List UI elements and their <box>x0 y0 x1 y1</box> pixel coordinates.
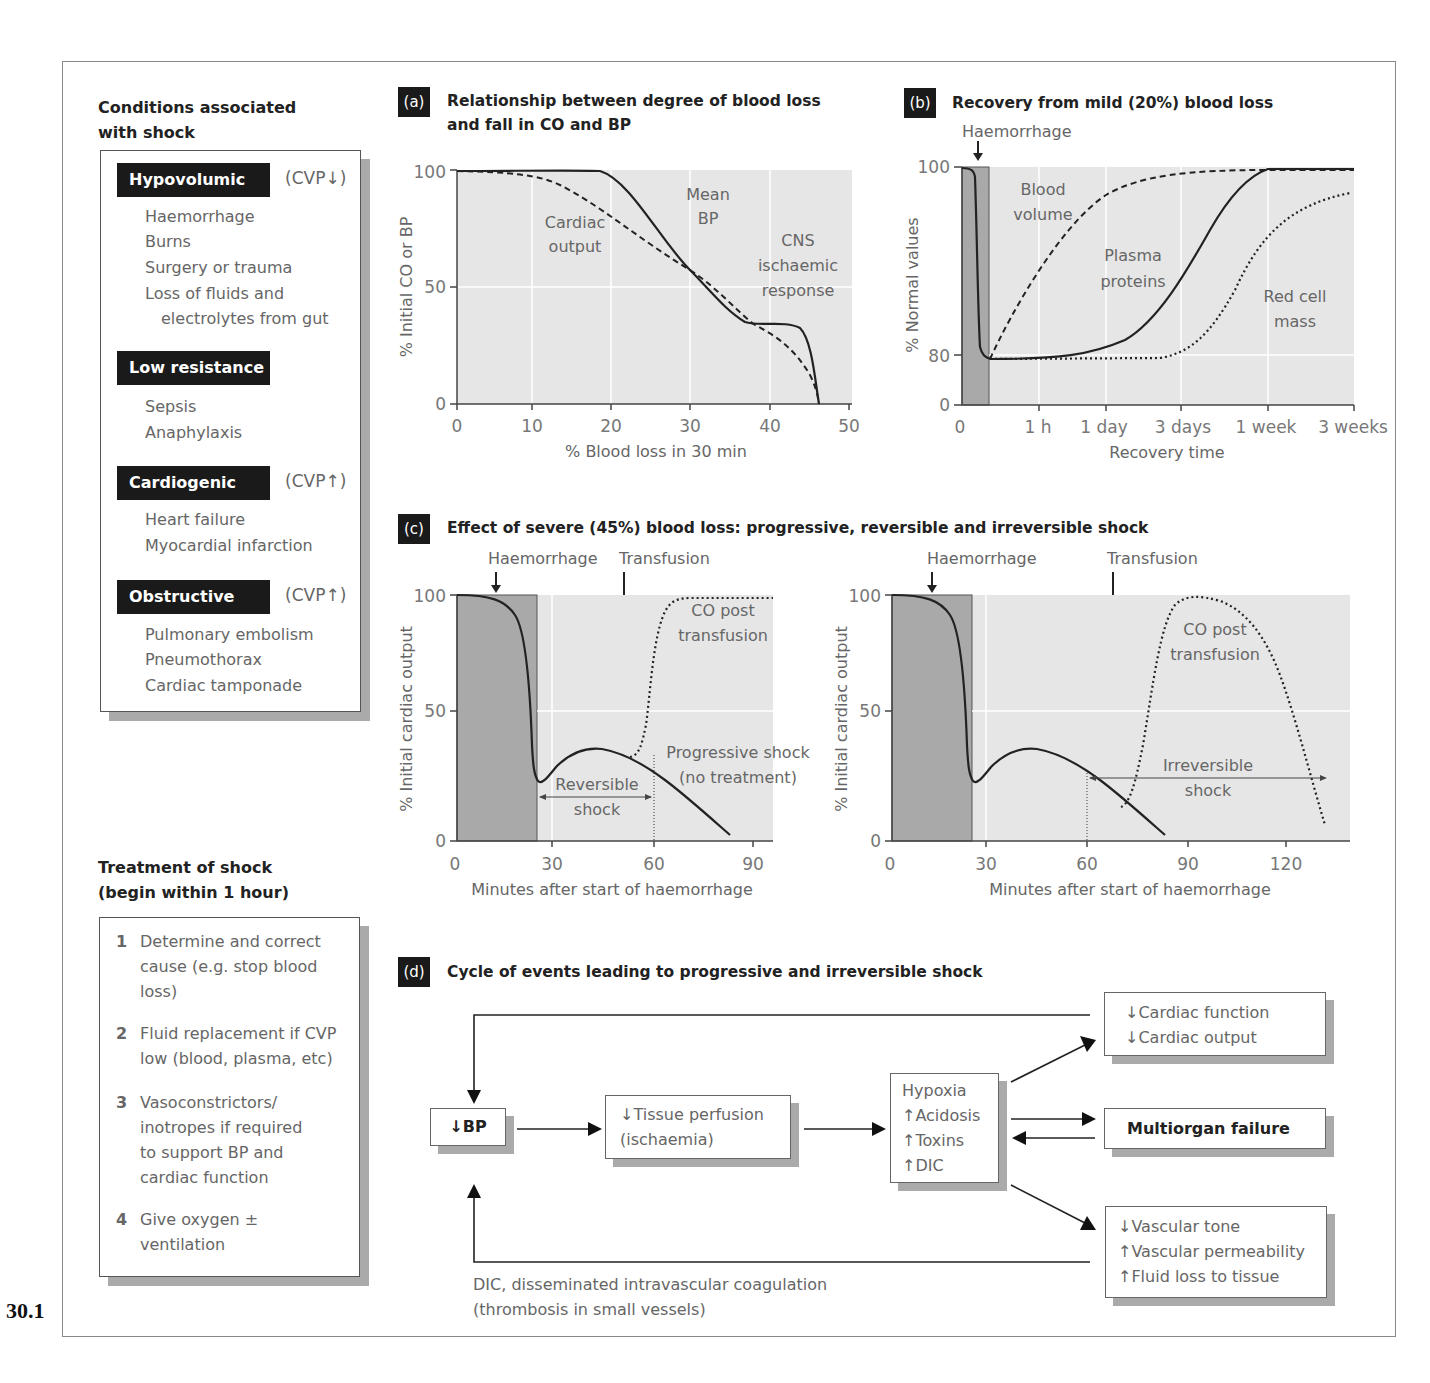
y-tick: 0 <box>435 394 446 414</box>
arrowhead-icon <box>1012 1131 1026 1145</box>
haemorrhage-period <box>457 595 537 841</box>
step-number: 4 <box>116 1207 127 1232</box>
y-ticks: 100 50 0 <box>414 162 446 414</box>
step-text: Give oxygen ± ventilation <box>140 1207 258 1257</box>
node-bp: ↓BP <box>430 1108 506 1146</box>
figure-number: 30.1 <box>6 1298 45 1324</box>
y-ticks: 100500 <box>849 586 881 851</box>
x-tick: 0 <box>450 854 461 874</box>
label-red-cell: Red cell <box>1263 287 1326 306</box>
x-tick: 30 <box>679 416 701 436</box>
label-blood: Blood <box>1020 180 1065 199</box>
step-line: loss) <box>140 979 321 1004</box>
node-line: ↓Vascular tone <box>1118 1214 1326 1239</box>
panel-d-label: (d) <box>398 957 430 987</box>
y-axis-label: % Normal values <box>903 217 922 352</box>
x-axis-label: Minutes after start of haemorrhage <box>989 880 1271 899</box>
arrowhead-icon <box>467 1090 481 1104</box>
chart-c-left: Haemorrhage Transfusion 100500 0306090 M… <box>390 545 830 910</box>
x-tick: 60 <box>643 854 665 874</box>
label-co-post: CO post <box>1183 620 1246 639</box>
step-line: low (blood, plasma, etc) <box>140 1046 336 1071</box>
step-number: 3 <box>116 1090 127 1115</box>
node-line: ↑Toxins <box>902 1128 998 1153</box>
treatment-heading-line1: Treatment of shock <box>98 855 289 880</box>
label-bp: BP <box>698 209 719 228</box>
step-line: Give oxygen ± <box>140 1207 258 1232</box>
label-shock: shock <box>574 800 621 819</box>
panel-b-label: (b) <box>904 88 936 118</box>
x-axis-label: Recovery time <box>1109 443 1224 462</box>
step-text: Determine and correct cause (e.g. stop b… <box>140 929 321 1004</box>
label-co-post: CO post <box>691 601 754 620</box>
node-tissue-perfusion: ↓Tissue perfusion (ischaemia) <box>605 1095 791 1159</box>
step-text: Vasoconstrictors/ inotropes if required … <box>140 1090 302 1190</box>
condition-item: Anaphylaxis <box>145 420 242 445</box>
condition-item: Cardiac tamponade <box>145 673 302 698</box>
condition-item: Sepsis <box>145 394 196 419</box>
label-proteins: proteins <box>1100 272 1165 291</box>
x-ticks: 0306090120 <box>885 854 1303 874</box>
arrowhead-icon <box>927 585 937 593</box>
dic-footnote: DIC, disseminated intravascular coagulat… <box>473 1272 827 1322</box>
conditions-box: Hypovolumic (CVP↓) Haemorrhage Burns Sur… <box>100 150 361 712</box>
x-tick: 3 weeks <box>1318 417 1388 437</box>
treatment-heading-line2: (begin within 1 hour) <box>98 880 289 905</box>
node-line: ↑Vascular permeability <box>1118 1239 1326 1264</box>
cvp-cardiogenic: (CVP↑) <box>285 471 346 491</box>
label-reversible: Reversible <box>555 775 638 794</box>
condition-item: Pulmonary embolism <box>145 622 314 647</box>
node-multiorgan-failure: Multiorgan failure <box>1104 1108 1326 1149</box>
node-line: ↑DIC <box>902 1153 998 1178</box>
panel-c-title: Effect of severe (45%) blood loss: progr… <box>447 516 1148 540</box>
panel-c-label: (c) <box>398 514 430 544</box>
transfusion-label: Transfusion <box>618 549 710 568</box>
x-tick: 40 <box>759 416 781 436</box>
transfusion-label: Transfusion <box>1106 549 1198 568</box>
x-tick: 0 <box>885 854 896 874</box>
node-hypoxia: Hypoxia ↑Acidosis ↑Toxins ↑DIC <box>890 1073 999 1183</box>
panel-a-title-line2: and fall in CO and BP <box>447 113 821 137</box>
arrowhead-icon <box>973 153 983 161</box>
step-text: Fluid replacement if CVP low (blood, pla… <box>140 1021 336 1071</box>
y-tick: 100 <box>918 157 950 177</box>
x-tick: 50 <box>838 416 860 436</box>
step-line: ventilation <box>140 1232 258 1257</box>
chart-c-right: Haemorrhage Transfusion 100500 030609012… <box>825 545 1400 910</box>
arrowhead-icon <box>491 585 501 593</box>
y-axis-label: % Initial cardiac output <box>397 626 416 812</box>
arrowhead-icon <box>588 1122 602 1136</box>
y-tick: 100 <box>414 586 446 606</box>
arrowhead-icon <box>1080 1036 1096 1052</box>
x-ticks: 0306090 <box>450 854 764 874</box>
x-tick: 1 h <box>1025 417 1052 437</box>
step-number: 2 <box>116 1021 127 1046</box>
node-vascular: ↓Vascular tone ↑Vascular permeability ↑F… <box>1105 1206 1327 1298</box>
x-axis-label: Minutes after start of haemorrhage <box>471 880 753 899</box>
haemorrhage-label: Haemorrhage <box>927 549 1037 568</box>
y-tick: 100 <box>414 162 446 182</box>
x-tick: 0 <box>955 417 966 437</box>
label-cardiac: Cardiac <box>545 213 605 232</box>
chart-b: Haemorrhage 100800 01 h1 day3 days1 week… <box>890 115 1400 470</box>
step-line: Vasoconstrictors/ <box>140 1090 302 1115</box>
x-axis-label: % Blood loss in 30 min <box>565 442 747 461</box>
arrowhead-icon <box>872 1122 886 1136</box>
x-tick: 60 <box>1076 854 1098 874</box>
panel-a-title: Relationship between degree of blood los… <box>447 89 821 137</box>
label-output: output <box>549 237 602 256</box>
tag-hypovolumic: Hypovolumic <box>117 163 270 197</box>
tag-obstructive: Obstructive <box>117 580 270 614</box>
y-tick: 50 <box>424 701 446 721</box>
y-axis-label: % Initial cardiac output <box>832 626 851 812</box>
haemorrhage-period <box>892 595 972 841</box>
label-mass: mass <box>1274 312 1316 331</box>
y-axis-label: % Initial CO or BP <box>397 216 416 357</box>
label-response: response <box>762 281 835 300</box>
condition-item: Haemorrhage <box>145 204 255 229</box>
y-ticks: 100500 <box>414 586 446 851</box>
x-tick: 90 <box>742 854 764 874</box>
node-line: Hypoxia <box>902 1078 998 1103</box>
conditions-heading: Conditions associated with shock <box>98 95 296 145</box>
condition-item: Loss of fluids and <box>145 281 284 306</box>
